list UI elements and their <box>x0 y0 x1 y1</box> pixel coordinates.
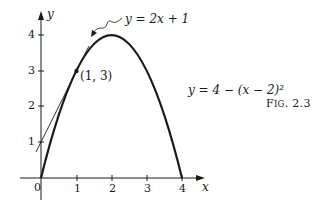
x-tick-label: 4 <box>179 183 186 195</box>
caption-number: . 2.3 <box>285 97 311 110</box>
pointer-arrow <box>93 18 122 33</box>
x-axis-label: x <box>202 181 209 193</box>
caption-prefix: F <box>266 97 274 110</box>
y-tick-label: 3 <box>28 65 35 77</box>
origin-label: 0 <box>34 182 41 194</box>
figure-caption: FIG. 2.3 <box>266 98 311 110</box>
figure: y x 0 1 2 3 4 1 2 3 4 y = 2x + 1 y = 4 −… <box>0 0 317 215</box>
x-axis <box>20 175 205 181</box>
tangent-point <box>74 69 78 73</box>
curve-equation-label: y = 4 − (x − 2)² <box>188 84 284 96</box>
y-axis-label: y <box>47 8 54 20</box>
caption-smallcaps: IG <box>274 99 285 109</box>
tangent-equation-label: y = 2x + 1 <box>125 13 189 25</box>
parabola-curve <box>41 35 182 178</box>
y-tick-label: 4 <box>28 29 35 41</box>
x-tick-label: 2 <box>109 183 116 195</box>
y-axis-arrow-icon <box>38 11 44 20</box>
tangent-line <box>36 46 89 152</box>
y-tick-label: 1 <box>28 136 35 148</box>
x-tick-label: 1 <box>74 183 81 195</box>
y-tick-label: 2 <box>28 100 35 112</box>
x-tick-label: 3 <box>144 183 151 195</box>
point-label: (1, 3) <box>80 70 112 82</box>
